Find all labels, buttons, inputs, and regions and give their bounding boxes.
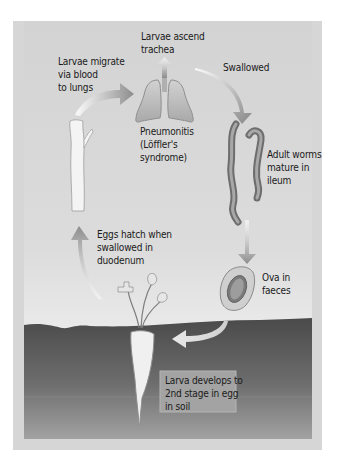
label-eggs-hatch: Eggs hatch when swallowed in duodenum bbox=[97, 228, 172, 267]
label-adult-worms: Adult worms mature in ileum bbox=[267, 148, 321, 187]
label-ova-in-faeces: Ova in faeces bbox=[262, 271, 290, 297]
label-pneumonitis: Pneumonitis (Löffler's syndrome) bbox=[140, 125, 194, 164]
label-larva-develops: Larva develops to 2nd stage in egg in so… bbox=[165, 374, 243, 413]
label-swallowed: Swallowed bbox=[223, 61, 269, 74]
label-larvae-ascend: Larvae ascend trachea bbox=[141, 30, 205, 56]
label-larvae-migrate: Larvae migrate via blood to lungs bbox=[58, 55, 125, 94]
